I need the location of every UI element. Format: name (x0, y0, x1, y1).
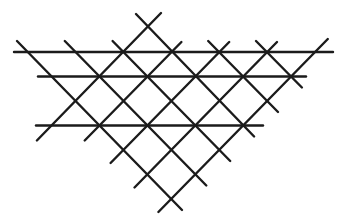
lattice-line-figure (0, 0, 345, 224)
backslash-diagonal-6 (256, 41, 302, 88)
slash-diagonal-4 (135, 42, 278, 188)
figure-canvas (0, 0, 345, 224)
lattice-lines (14, 13, 333, 212)
slash-diagonal-3 (111, 42, 230, 163)
